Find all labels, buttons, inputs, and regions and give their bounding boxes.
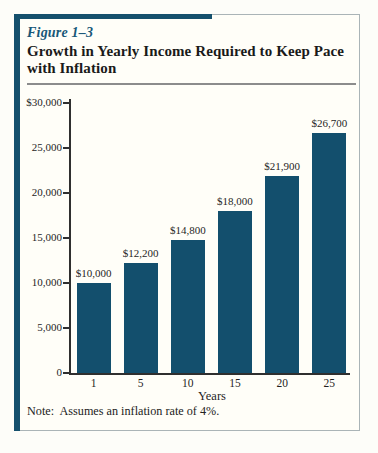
y-axis-tick bbox=[63, 192, 70, 193]
bar-value-label: $12,200 bbox=[106, 247, 176, 259]
bar bbox=[265, 176, 299, 373]
figure-note: Note: Assumes an inflation rate of 4%. bbox=[27, 404, 219, 419]
y-axis-tick bbox=[63, 327, 70, 328]
y-axis-label: 0 bbox=[6, 366, 62, 378]
y-axis-tick bbox=[63, 237, 70, 238]
y-axis-label: 15,000 bbox=[6, 231, 62, 243]
y-axis-tick bbox=[63, 372, 70, 373]
figure-title: Growth in Yearly Income Required to Keep… bbox=[27, 43, 363, 76]
bar bbox=[77, 283, 111, 373]
figure-number-label: Figure 1–3 bbox=[27, 25, 93, 41]
y-axis-tick bbox=[63, 282, 70, 283]
x-axis-line bbox=[69, 373, 350, 375]
y-axis-label: 5,000 bbox=[6, 321, 62, 333]
bar-value-label: $26,700 bbox=[294, 117, 364, 129]
bar bbox=[171, 240, 205, 373]
bar-value-label: $14,800 bbox=[153, 224, 223, 236]
bar-value-label: $10,000 bbox=[59, 267, 129, 279]
bar bbox=[124, 263, 158, 373]
bar-value-label: $21,900 bbox=[247, 160, 317, 172]
x-axis-label: 1 bbox=[74, 377, 114, 389]
x-axis-label: 25 bbox=[309, 377, 349, 389]
title-divider-rule bbox=[27, 83, 356, 85]
bar bbox=[312, 133, 346, 373]
y-axis-label: 10,000 bbox=[6, 276, 62, 288]
x-axis-title: Years bbox=[172, 389, 252, 404]
x-axis-label: 10 bbox=[168, 377, 208, 389]
y-axis-tick bbox=[63, 147, 70, 148]
x-axis-label: 15 bbox=[215, 377, 255, 389]
frame-accent-top-bar bbox=[14, 14, 212, 19]
y-axis-label: $30,000 bbox=[6, 96, 62, 108]
bar-value-label: $18,000 bbox=[200, 195, 270, 207]
figure-page: Figure 1–3 Growth in Yearly Income Requi… bbox=[0, 0, 378, 453]
x-axis-label: 5 bbox=[121, 377, 161, 389]
y-axis-tick bbox=[63, 102, 70, 103]
y-axis-label: 25,000 bbox=[6, 141, 62, 153]
y-axis-label: 20,000 bbox=[6, 186, 62, 198]
bar bbox=[218, 211, 252, 373]
x-axis-label: 20 bbox=[262, 377, 302, 389]
